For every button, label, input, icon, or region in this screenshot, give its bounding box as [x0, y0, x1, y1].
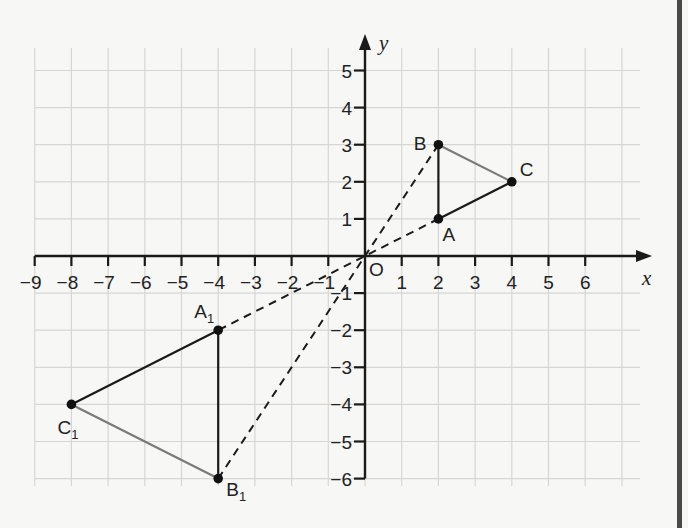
x-tick-label: −2 — [277, 272, 299, 293]
vertex-dot-C1 — [67, 400, 77, 410]
point-label-B1: B1 — [226, 479, 246, 504]
y-tick-label: 2 — [341, 172, 352, 193]
subscript: 1 — [239, 489, 246, 504]
subscript: 1 — [71, 427, 78, 442]
coordinate-plane-diagram: −9−8−7−6−5−4−3−2−112345654321−1−2−3−4−5−… — [0, 0, 688, 528]
y-tick-label: 1 — [341, 209, 352, 230]
plot-svg: −9−8−7−6−5−4−3−2−112345654321−1−2−3−4−5−… — [0, 0, 688, 528]
point-label-A1: A1 — [194, 301, 214, 326]
x-tick-label: −9 — [20, 272, 42, 293]
x-tick-label: −6 — [130, 272, 152, 293]
y-tick-label: 4 — [341, 98, 352, 119]
y-axis-label: y — [377, 31, 389, 55]
subscript: 1 — [207, 311, 214, 326]
y-axis-arrow-icon — [359, 34, 371, 50]
x-tick-label: 3 — [470, 272, 481, 293]
vertex-dot-A1 — [213, 325, 223, 335]
tick-labels: −9−8−7−6−5−4−3−2−112345654321−1−2−3−4−5−… — [20, 31, 652, 490]
point-label-C: C — [520, 159, 534, 180]
x-tick-label: −3 — [240, 272, 262, 293]
vertex-dot-B — [434, 140, 444, 150]
vertex-dot-C — [507, 177, 517, 187]
x-tick-label: 1 — [396, 272, 407, 293]
y-tick-label: −2 — [330, 320, 352, 341]
x-tick-label: −8 — [57, 272, 79, 293]
y-tick-label: −5 — [330, 432, 352, 453]
point-label-B: B — [414, 133, 427, 154]
origin-label: O — [369, 259, 384, 280]
y-tick-label: 3 — [341, 135, 352, 156]
x-tick-label: 5 — [543, 272, 554, 293]
point-labels: ABCA1B1C1 — [57, 133, 533, 504]
point-label-A: A — [442, 224, 455, 245]
y-tick-label: 5 — [341, 61, 352, 82]
x-tick-label: 4 — [507, 272, 518, 293]
point-label-C1: C1 — [57, 417, 78, 442]
y-tick-label: −1 — [330, 283, 352, 304]
x-tick-label: −7 — [93, 272, 115, 293]
page-edge-bar — [677, 0, 682, 528]
y-tick-label: −3 — [330, 357, 352, 378]
x-tick-label: 2 — [433, 272, 444, 293]
x-axis-arrow-icon — [636, 250, 652, 262]
grid — [35, 48, 640, 486]
y-tick-label: −4 — [330, 394, 352, 415]
x-axis-label: x — [641, 266, 652, 290]
x-tick-label: 6 — [580, 272, 591, 293]
vertex-dot-B1 — [213, 474, 223, 484]
x-tick-label: −5 — [167, 272, 189, 293]
vertex-dot-A — [434, 214, 444, 224]
y-tick-label: −6 — [330, 469, 352, 490]
x-tick-label: −4 — [203, 272, 225, 293]
